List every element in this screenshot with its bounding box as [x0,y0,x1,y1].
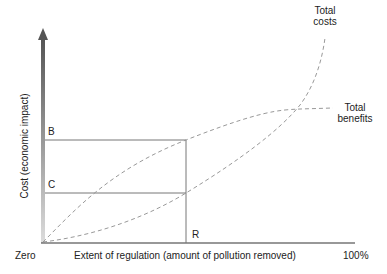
b-label: B [48,126,55,137]
total-benefits-label: Total benefits [333,102,377,124]
hundred-percent-label: 100% [343,250,369,261]
total-costs-label-line2: costs [305,16,345,27]
total-benefits-curve [43,108,333,242]
total-costs-label-line1: Total [305,5,345,16]
zero-label: Zero [15,250,36,261]
y-axis-label: Cost (economic impact) [19,93,30,198]
r-label: R [192,229,199,240]
x-axis-label: Extent of regulation (amount of pollutio… [74,250,296,261]
y-axis [41,38,45,243]
c-label: C [48,179,55,190]
total-benefits-label-line2: benefits [333,113,377,124]
total-costs-label: Total costs [305,5,345,27]
y-axis-arrow-icon [38,28,48,40]
total-benefits-label-line1: Total [333,102,377,113]
